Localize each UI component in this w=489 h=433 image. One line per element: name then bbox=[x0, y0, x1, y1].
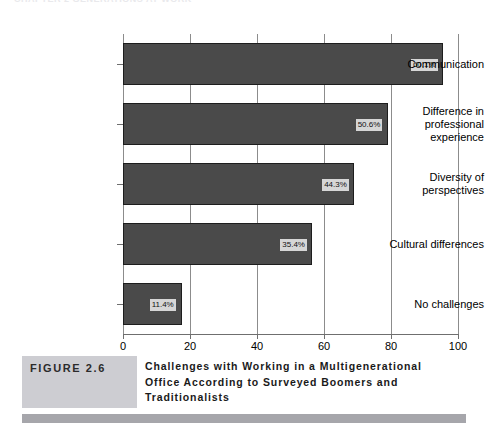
category-label: No challenges bbox=[371, 298, 489, 311]
category-tick-mark bbox=[117, 244, 123, 245]
x-tick-mark bbox=[391, 334, 392, 339]
bar-value-label: 11.4% bbox=[150, 299, 176, 311]
figure-title-line-2: Office According to Surveyed Boomers and bbox=[145, 375, 475, 391]
bar-value-label: 44.3% bbox=[322, 179, 349, 191]
figure-number: FIGURE 2.6 bbox=[30, 362, 106, 374]
x-tick-label: 80 bbox=[371, 340, 411, 352]
category-tick-mark bbox=[117, 64, 123, 65]
category-tick-mark bbox=[117, 304, 123, 305]
x-tick-label: 0 bbox=[103, 340, 143, 352]
category-label-line: No challenges bbox=[371, 298, 484, 311]
x-tick-label: 20 bbox=[170, 340, 210, 352]
category-label-line: Cultural differences bbox=[371, 238, 484, 251]
x-tick-mark bbox=[324, 334, 325, 339]
x-tick-mark bbox=[190, 334, 191, 339]
bar-chart: 60.1%50.6%44.3%35.4%11.4% CommunicationD… bbox=[0, 0, 489, 350]
figure-title: Challenges with Working in a Multigenera… bbox=[145, 359, 475, 406]
category-tick-mark bbox=[117, 124, 123, 125]
category-label: Communication bbox=[371, 58, 489, 71]
figure-title-line-3: Traditionalists bbox=[145, 390, 475, 406]
x-tick-label: 100 bbox=[438, 340, 478, 352]
bar bbox=[123, 163, 354, 205]
category-label-line: Diversity of bbox=[371, 171, 484, 184]
x-tick-mark bbox=[458, 334, 459, 339]
bar bbox=[123, 103, 388, 145]
figure-title-line-1: Challenges with Working in a Multigenera… bbox=[145, 359, 475, 375]
x-tick-label: 40 bbox=[237, 340, 277, 352]
category-label-line: experience bbox=[371, 131, 484, 144]
x-axis-line bbox=[123, 334, 459, 335]
figure-caption: FIGURE 2.6 Challenges with Working in a … bbox=[0, 356, 489, 408]
category-label: Diversity ofperspectives bbox=[371, 171, 489, 197]
category-label-line: professional bbox=[371, 118, 484, 131]
category-label: Cultural differences bbox=[371, 238, 489, 251]
bar-value-label: 35.4% bbox=[280, 239, 307, 251]
x-tick-mark bbox=[257, 334, 258, 339]
x-tick-mark bbox=[123, 334, 124, 339]
category-label: Difference inprofessionalexperience bbox=[371, 105, 489, 144]
category-tick-mark bbox=[117, 184, 123, 185]
category-label-line: Difference in bbox=[371, 105, 484, 118]
bottom-rule bbox=[22, 414, 466, 423]
x-tick-label: 60 bbox=[304, 340, 344, 352]
category-label-line: Communication bbox=[371, 58, 484, 71]
category-label-line: perspectives bbox=[371, 184, 484, 197]
